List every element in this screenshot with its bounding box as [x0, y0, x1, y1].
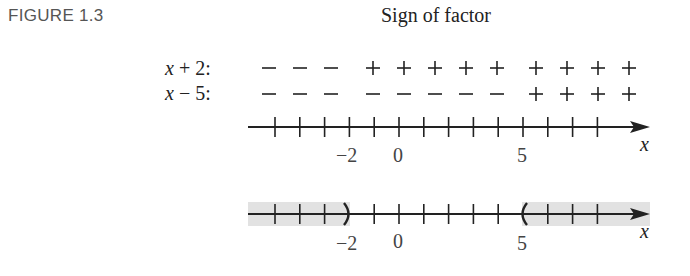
tick-label-0: 0 — [393, 230, 403, 252]
number-line-top: −2 0 5 x — [248, 117, 650, 166]
axis-label-x: x — [639, 133, 649, 155]
tick-label-5: 5 — [517, 232, 527, 254]
row-label-x-minus-5: x − 5: — [164, 82, 211, 104]
tick-label-neg2: −2 — [336, 144, 357, 166]
sign-row-x-plus-2 — [262, 61, 636, 75]
sign-row-x-minus-5 — [262, 87, 636, 101]
number-line-bottom: −2 0 5 x — [248, 202, 650, 254]
tick-label-0: 0 — [393, 144, 403, 166]
tick-label-neg2: −2 — [336, 232, 357, 254]
sign-chart-figure: x + 2: x − 5: −2 0 5 x −2 0 5 x — [0, 0, 690, 276]
row-label-x-plus-2: x + 2: — [164, 57, 211, 79]
axis-label-x: x — [639, 220, 649, 242]
tick-label-5: 5 — [517, 144, 527, 166]
